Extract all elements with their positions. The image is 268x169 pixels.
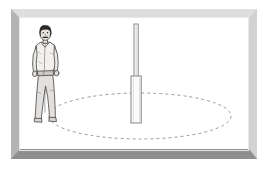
man-hand-left — [33, 71, 38, 77]
man-eye-left — [42, 32, 44, 34]
man-eye-right — [47, 32, 49, 34]
man-shoe-right — [49, 118, 57, 122]
line-art-illustration — [0, 0, 268, 169]
scene-root — [0, 0, 268, 169]
man-shoe-left — [34, 119, 42, 123]
standing-man — [33, 25, 59, 122]
vertical-pole — [131, 24, 141, 123]
artwork-canvas — [0, 0, 268, 169]
man-hand-right — [54, 70, 59, 76]
man-arm-right — [54, 46, 58, 72]
man-arm-left — [33, 46, 37, 72]
